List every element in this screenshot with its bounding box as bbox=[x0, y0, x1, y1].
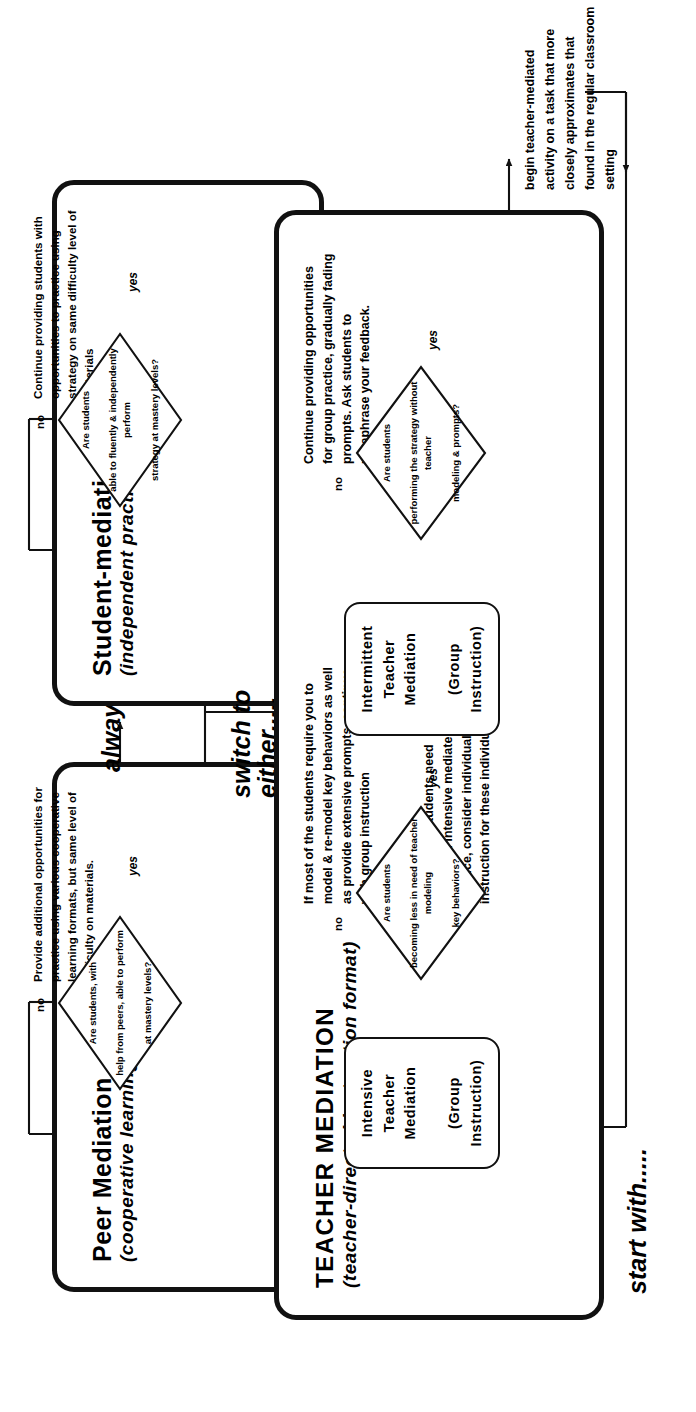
student-decision-diamond: Are students able to fluently & independ… bbox=[58, 333, 182, 507]
intensive-teacher-mediation-box: Intensive Teacher Mediation (Group Instr… bbox=[344, 1037, 500, 1169]
flowchart-canvas: Peer Mediation (cooperative learning for… bbox=[0, 0, 696, 1412]
intermittent-decision-diamond: Are students performing the strategy wit… bbox=[356, 366, 486, 540]
intermittent-yes-label: yes bbox=[426, 330, 440, 350]
peer-no-label: no bbox=[34, 998, 46, 1012]
intermittent-no-label: no bbox=[332, 477, 344, 491]
teacher-mediation-title-text: TEACHER MEDIATION bbox=[312, 941, 339, 1288]
student-no-label: no bbox=[34, 415, 46, 429]
intermittent-decision-label: Are students performing the strategy wit… bbox=[356, 366, 486, 540]
intensive-decision-diamond: Are students becoming less in need of te… bbox=[356, 806, 486, 980]
student-yes-label: yes bbox=[126, 272, 140, 292]
diagram-stage: Peer Mediation (cooperative learning for… bbox=[0, 0, 696, 1412]
start-with-caption: start with..... bbox=[624, 1148, 650, 1294]
intensive-decision-label: Are students becoming less in need of te… bbox=[356, 806, 486, 980]
intensive-yes-label: yes bbox=[426, 768, 440, 788]
intensive-no-label: no bbox=[332, 917, 344, 931]
intermittent-teacher-mediation-box: Intermittent Teacher Mediation (Group In… bbox=[344, 602, 500, 736]
student-decision-label: Are students able to fluently & independ… bbox=[58, 333, 182, 507]
entry-activity-note: begin teacher-mediated activity on a tas… bbox=[520, 5, 620, 190]
peer-decision-diamond: Are students, with help from peers, able… bbox=[58, 916, 182, 1090]
peer-decision-label: Are students, with help from peers, able… bbox=[58, 916, 182, 1090]
peer-yes-label: yes bbox=[126, 856, 140, 876]
switch-to-either-caption: switch to either..... bbox=[228, 690, 281, 798]
